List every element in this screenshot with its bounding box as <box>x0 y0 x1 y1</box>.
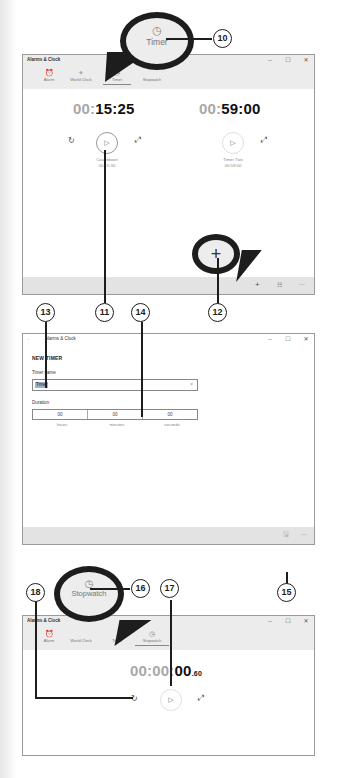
timer-countdown-display: 00:15:25 <box>73 100 135 117</box>
reset-icon[interactable]: ↻ <box>131 694 138 703</box>
add-callout-bubble: + <box>192 234 240 274</box>
save-button[interactable]: 🖫 <box>283 530 289 541</box>
play-button[interactable]: ▷ <box>96 132 118 154</box>
more-button[interactable]: ··· <box>299 281 305 287</box>
duration-label: Duration <box>32 400 49 405</box>
alarm-clock-icon: ⏰ <box>35 629 63 638</box>
timer-two-display: 00:59:00 <box>199 100 261 117</box>
stopwatch-display: 00:00:00.60 <box>130 662 202 679</box>
close-button[interactable]: ✕ <box>302 56 310 65</box>
title-bar: Alarms & Clock – ☐ ✕ <box>23 616 314 628</box>
bottom-app-bar: + ☷ ··· <box>23 277 314 294</box>
page-edge-shadow <box>0 0 16 778</box>
page-title: NEW TIMER <box>32 355 62 361</box>
start-button[interactable]: ▷ <box>160 689 182 711</box>
leader-line <box>170 600 172 686</box>
leader-line <box>104 150 106 303</box>
marker-11: 11 <box>95 303 114 322</box>
new-timer-window: ← Alarms & Clock – ☐ ✕ NEW TIMER Timer n… <box>22 333 315 545</box>
marker-13: 13 <box>36 303 55 322</box>
close-button[interactable]: ✕ <box>302 335 310 344</box>
hours-field[interactable]: 00 <box>33 410 88 419</box>
hours-label: hours <box>35 422 89 427</box>
leader-line <box>217 258 219 304</box>
play-icon: ▷ <box>230 139 235 146</box>
leader-line <box>35 697 133 699</box>
leader-line <box>141 322 143 417</box>
leader-line <box>35 600 37 698</box>
app-title: Alarms & Clock <box>27 57 60 62</box>
minimize-button[interactable]: – <box>266 56 274 65</box>
more-button[interactable]: ··· <box>301 531 307 537</box>
marker-18: 18 <box>26 583 45 602</box>
marker-14: 14 <box>131 303 150 322</box>
play-icon: ▷ <box>104 139 109 146</box>
minutes-field[interactable]: 00 <box>88 410 143 419</box>
clear-icon[interactable]: × <box>190 382 193 387</box>
seconds-label: seconds <box>145 422 199 427</box>
timer-name-input[interactable]: Timer × <box>32 379 198 391</box>
timer-name-label: Timer name <box>32 370 56 375</box>
marker-16: 16 <box>131 579 150 598</box>
add-timer-button[interactable]: + <box>255 280 260 289</box>
expand-icon[interactable]: ⤢ <box>261 135 267 145</box>
expand-icon[interactable]: ⤢ <box>135 135 141 145</box>
alarm-clock-icon: ⏰ <box>35 68 63 77</box>
leader-line <box>166 38 212 40</box>
duration-picker[interactable]: 00 00 00 <box>32 409 198 420</box>
timer-set-time: 00:59:00 <box>211 163 255 169</box>
timer-callout-bubble: ◷ Timer <box>120 12 194 70</box>
leader-line <box>90 588 130 590</box>
marker-10: 10 <box>213 29 232 48</box>
close-button[interactable]: ✕ <box>302 617 310 626</box>
minutes-label: minutes <box>90 422 144 427</box>
app-title: Alarms & Clock <box>27 618 60 623</box>
timer-icon: ◷ <box>126 24 188 37</box>
minimize-button[interactable]: – <box>266 335 274 344</box>
stopwatch-callout-bubble: ◷ Stopwatch <box>54 566 124 622</box>
reset-icon[interactable]: ↻ <box>68 136 75 145</box>
play-button[interactable]: ▷ <box>222 132 244 154</box>
tab-bar: ⏰ Alarm ⌖ World Clock ◷ Timer . Stopwatc… <box>23 67 314 89</box>
stopwatch-window: Alarms & Clock – ☐ ✕ ⏰ Alarm . World Clo… <box>22 615 315 756</box>
tab-bar: ⏰ Alarm . World Clock . Timer ◷ Stopwatc… <box>23 628 314 650</box>
select-timers-button[interactable]: ☷ <box>277 281 282 288</box>
leader-line <box>45 322 47 388</box>
play-icon: ▷ <box>168 696 173 703</box>
tab-alarm[interactable]: ⏰ Alarm <box>35 629 63 643</box>
maximize-button[interactable]: ☐ <box>284 56 292 65</box>
maximize-button[interactable]: ☐ <box>284 335 292 344</box>
maximize-button[interactable]: ☐ <box>284 617 292 626</box>
back-button[interactable]: ← <box>27 336 32 341</box>
timer-caption: Countdown 00:15:30 <box>85 157 129 169</box>
expand-icon[interactable]: ⤢ <box>198 693 204 703</box>
minimize-button[interactable]: – <box>266 617 274 626</box>
world-clock-icon: ⌖ <box>63 68 99 77</box>
add-icon: + <box>198 240 234 268</box>
callout-label: Stopwatch <box>60 589 118 598</box>
app-title: Alarms & Clock <box>45 336 76 341</box>
timer-set-time: 00:15:30 <box>85 163 129 169</box>
marker-17: 17 <box>160 579 179 598</box>
tab-world-clock[interactable]: . World Clock <box>63 629 99 643</box>
timer-window: Alarms & Clock – ☐ ✕ ⏰ Alarm ⌖ World Clo… <box>22 54 315 295</box>
timer-caption: Timer Two 00:59:00 <box>211 157 255 169</box>
marker-15: 15 <box>277 583 296 602</box>
tab-alarm[interactable]: ⏰ Alarm <box>35 68 63 82</box>
title-bar: ← Alarms & Clock – ☐ ✕ <box>23 334 314 346</box>
marker-12: 12 <box>208 303 227 322</box>
bottom-app-bar: 🖫 ··· <box>23 527 314 544</box>
seconds-field[interactable]: 00 <box>143 410 197 419</box>
